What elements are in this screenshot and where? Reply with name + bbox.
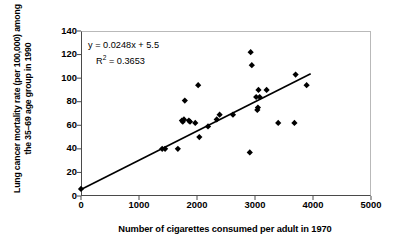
y-axis-label-container: Lung cancer mortality rate (per 100,000)… [0,0,46,205]
chart-figure: Lung cancer mortality rate (per 100,000)… [0,0,395,248]
y-tick-label: 60 [51,119,77,130]
y-tick-label: 140 [51,25,77,36]
y-tick-label: 120 [51,48,77,59]
x-axis-label: Number of cigarettes consumed per adult … [60,224,390,234]
y-tick-label: 40 [51,142,77,153]
x-tick-label: 0 [61,199,101,210]
y-tick-label: 100 [51,72,77,83]
regression-equation: y = 0.0248x + 5.5 [88,39,159,52]
regression-annotation: y = 0.0248x + 5.5 R2 = 0.3653 [88,39,159,67]
x-axis-tick-labels: 010002000300040005000 [0,199,395,215]
x-tick-label: 1000 [119,199,159,210]
y-tick-label: 20 [51,166,77,177]
x-tick-label: 4000 [293,199,333,210]
x-tick-label: 2000 [177,199,217,210]
y-axis-label: Lung cancer mortality rate (per 100,000)… [12,1,33,197]
r-squared-value: R2 = 0.3653 [88,52,159,68]
y-tick-label: 80 [51,95,77,106]
r-squared-prefix: R [96,56,103,66]
x-tick-label: 3000 [235,199,275,210]
r-squared-number: = 0.3653 [106,56,145,66]
x-tick-label: 5000 [351,199,391,210]
